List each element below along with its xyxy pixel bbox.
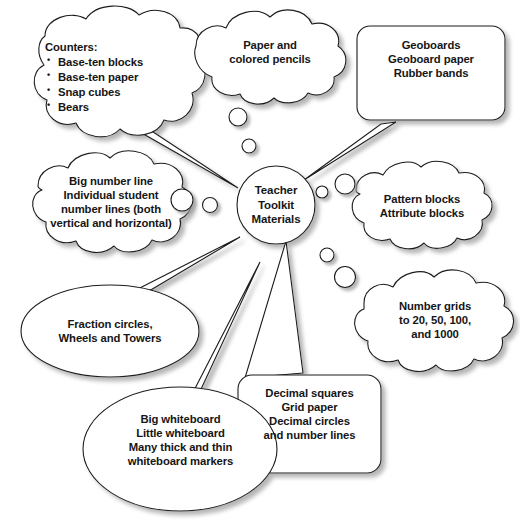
thought-dot-paper-large [229,108,247,126]
tail-decimal-squares [245,241,303,378]
thought-dot-pattern-small [316,186,328,198]
bubble-geoboards[interactable] [357,26,505,120]
bubble-fraction-circles[interactable] [21,285,199,377]
bubble-whiteboards[interactable] [83,387,277,511]
center-node[interactable] [237,166,315,244]
thought-dot-pattern-large [335,174,355,194]
bubble-paper[interactable] [195,10,346,104]
thought-dot-numberlines-large [171,189,193,211]
bubble-number-grids[interactable] [355,270,514,372]
bubble-number-lines[interactable] [33,151,192,253]
thought-dot-numberlines-small [203,198,218,213]
thought-dot-paper-small [242,139,256,153]
diagram-svg [0,0,520,525]
bubble-pattern-blocks[interactable] [352,161,492,248]
thought-dot-grids-small [320,248,334,262]
thought-dot-grids-large [335,267,356,288]
tail-geoboards [304,122,396,180]
bubble-counters[interactable] [34,6,205,137]
diagram-canvas: Counters: Base-ten blocks Base-ten paper… [0,0,520,525]
